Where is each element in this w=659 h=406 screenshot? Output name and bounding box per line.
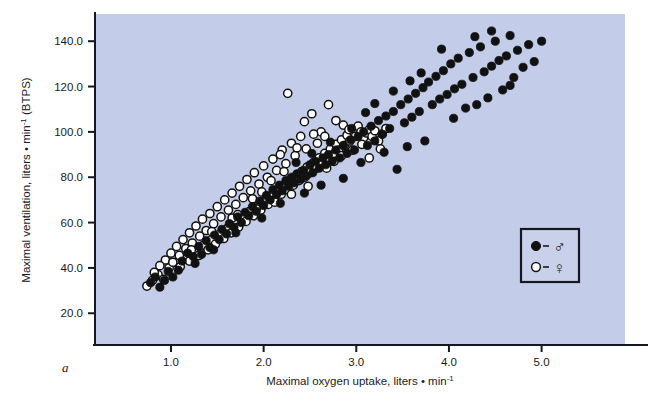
data-point-male (424, 78, 432, 86)
data-point-male (411, 89, 419, 97)
data-point-female (308, 110, 316, 118)
data-point-male (458, 80, 466, 88)
data-point-male (336, 154, 344, 162)
data-point-female (185, 229, 193, 237)
data-point-male (195, 242, 203, 250)
data-point-male (360, 128, 368, 136)
data-point-male (415, 107, 423, 115)
data-point-male (454, 54, 462, 62)
x-axis-title: Maximal oxygen uptake, liters • min-1 (266, 374, 454, 387)
data-point-male (506, 31, 514, 39)
data-point-male (417, 69, 425, 77)
data-point-male (191, 259, 199, 267)
data-point-male (232, 229, 240, 237)
data-point-male (389, 107, 397, 115)
data-point-male (292, 158, 300, 166)
data-point-male (432, 72, 440, 80)
data-point-male (491, 37, 499, 45)
data-point-male (404, 95, 412, 103)
data-point-male (421, 137, 429, 145)
y-tick-label: 40.0 (61, 262, 83, 274)
y-axis-tick-labels: 20.040.060.080.0100.0120.0140.0 (54, 35, 83, 319)
legend-open-circle-icon (532, 263, 541, 272)
data-point-female (206, 209, 214, 217)
y-axis-title: Maximal ventilation, liters • min-1 (BTP… (19, 77, 32, 283)
scatter-plot: 20.040.060.080.0100.0120.0140.0 1.02.03.… (0, 0, 659, 406)
data-point-female (169, 258, 177, 266)
data-point-male (473, 101, 481, 109)
data-point-male (151, 273, 159, 281)
data-point-female (228, 189, 236, 197)
data-point-male (245, 212, 253, 220)
x-tick-label: 5.0 (534, 356, 550, 368)
data-point-female (255, 180, 263, 188)
data-point-male (480, 68, 488, 76)
data-point-male (339, 141, 347, 149)
data-point-female (313, 139, 321, 147)
data-point-female (300, 118, 308, 126)
data-point-male (525, 41, 533, 49)
data-point-male (506, 81, 514, 89)
data-point-male (400, 119, 408, 127)
x-axis-tick-labels: 1.02.03.04.05.0 (163, 356, 550, 368)
data-point-male (326, 138, 334, 146)
data-point-female (284, 89, 292, 97)
y-tick-label: 80.0 (61, 171, 83, 183)
y-tick-label: 120.0 (54, 81, 83, 93)
data-point-female (260, 162, 268, 170)
data-point-male (538, 37, 546, 45)
svg-text:Maximal oxygen uptake, liters: Maximal oxygen uptake, liters • min-1 (266, 374, 454, 387)
data-point-female (267, 177, 275, 185)
data-point-male (530, 58, 538, 66)
data-point-male (197, 250, 205, 258)
data-point-female (282, 160, 290, 168)
data-point-male (174, 266, 182, 274)
data-point-male (328, 157, 336, 165)
data-point-female (287, 190, 295, 198)
y-axis-ticks (88, 41, 95, 313)
data-point-male (258, 214, 266, 222)
data-point-female (224, 206, 232, 214)
data-point-male (436, 95, 444, 103)
data-point-male (378, 130, 386, 138)
data-point-male (222, 230, 230, 238)
data-point-male (462, 104, 470, 112)
data-point-female (239, 194, 247, 202)
data-point-male (519, 63, 527, 71)
data-point-male (386, 124, 394, 132)
data-point-female (221, 196, 229, 204)
data-point-male (371, 137, 379, 145)
data-point-male (237, 218, 245, 226)
y-tick-label: 140.0 (54, 35, 83, 47)
data-point-female (210, 220, 218, 228)
data-point-male (450, 85, 458, 93)
female-symbol-icon: ♀ (553, 259, 566, 278)
data-point-male (502, 52, 510, 60)
data-point-male (371, 99, 379, 107)
plot-area-background (95, 14, 625, 345)
data-point-male (363, 141, 371, 149)
x-tick-label: 1.0 (163, 356, 179, 368)
data-point-female (250, 169, 258, 177)
y-tick-label: 60.0 (61, 217, 83, 229)
data-point-male (374, 116, 382, 124)
x-tick-label: 4.0 (441, 356, 457, 368)
data-point-male (308, 149, 316, 157)
legend-filled-circle-icon (531, 241, 540, 250)
data-point-male (260, 201, 268, 209)
data-point-female (280, 167, 288, 175)
data-point-male (443, 90, 451, 98)
data-point-male (406, 77, 414, 85)
data-point-female (297, 132, 305, 140)
x-tick-label: 3.0 (348, 356, 364, 368)
data-point-female (179, 235, 187, 243)
data-point-male (487, 27, 495, 35)
figure-container: 20.040.060.080.0100.0120.0140.0 1.02.03.… (0, 0, 659, 406)
data-point-male (252, 207, 260, 215)
data-point-male (380, 148, 388, 156)
male-symbol-icon: ♂ (553, 237, 566, 256)
data-point-male (487, 62, 495, 70)
x-axis-ticks (171, 345, 542, 352)
data-point-male (266, 196, 274, 204)
data-point-female (293, 144, 301, 152)
